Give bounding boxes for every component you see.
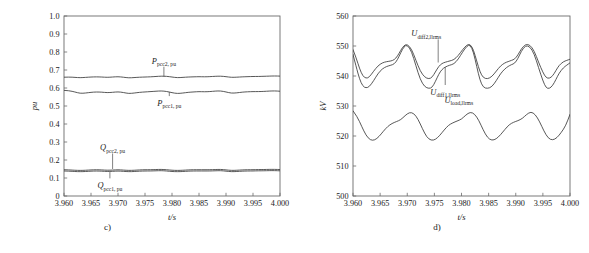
plot-frame	[353, 16, 570, 196]
panel-d-caption: d)	[290, 222, 584, 232]
x-tick-label: 3.980	[452, 199, 470, 208]
x-tick-label: 3.990	[507, 199, 525, 208]
x-axis-title: t/s	[457, 212, 466, 222]
x-tick-label: 3.960	[344, 199, 362, 208]
x-tick-label: 3.960	[55, 199, 73, 208]
annotation-label-U_diff2: Udiff2,llrms	[411, 29, 441, 39]
panel-d: 5005105205305405505603.9603.9653.9703.97…	[295, 0, 589, 253]
annotation-label-Q_pcc2: Qpcc2, pu	[100, 143, 125, 153]
y-tick-label: 530	[336, 102, 348, 111]
y-tick-label: 0.2	[49, 156, 59, 165]
y-tick-label: 0.9	[49, 30, 59, 39]
chart-d-plot: 5005105205305405505603.9603.9653.9703.97…	[295, 0, 589, 225]
chart-c-plot: 00.10.20.30.40.50.60.70.80.91.03.9603.96…	[0, 0, 295, 225]
x-tick-label: 3.965	[371, 199, 389, 208]
y-tick-label: 540	[336, 72, 348, 81]
x-tick-label: 4.000	[271, 199, 289, 208]
x-tick-label: 3.975	[136, 199, 154, 208]
series-curve-Q_pcc1,pu	[64, 171, 280, 172]
series-curve-U_load,llrms	[353, 111, 570, 140]
x-tick-label: 3.970	[109, 199, 127, 208]
annotation-label-P_pcc1: Ppcc1, pu	[156, 99, 181, 109]
panel-c: 00.10.20.30.40.50.60.70.80.91.03.9603.96…	[0, 0, 295, 253]
y-axis-title: kV	[318, 100, 328, 111]
y-tick-label: 0.1	[49, 174, 59, 183]
series-group	[64, 76, 280, 172]
series-curve-U_diff2,llrms	[353, 44, 570, 78]
y-tick-label: 550	[336, 42, 348, 51]
series-curve-P_pcc1,pu	[64, 90, 280, 93]
y-tick-label: 1.0	[49, 12, 59, 21]
x-tick-label: 3.985	[190, 199, 208, 208]
annotation-label-Q_pcc1: Qpcc1, pu	[97, 181, 122, 191]
y-tick-label: 520	[336, 132, 348, 141]
y-tick-label: 0.6	[49, 84, 59, 93]
y-axis-title: pu	[29, 102, 39, 112]
series-group	[353, 44, 570, 140]
y-tick-label: 0.7	[49, 66, 59, 75]
x-tick-label: 3.975	[425, 199, 443, 208]
y-tick-label: 560	[336, 12, 348, 21]
y-tick-label: 0.5	[49, 102, 59, 111]
x-tick-label: 3.990	[217, 199, 235, 208]
figure-container: 00.10.20.30.40.50.60.70.80.91.03.9603.96…	[0, 0, 589, 253]
annotation-label-P_pcc2: Ppcc2, pu	[151, 57, 176, 67]
y-tick-label: 510	[336, 162, 348, 171]
x-axis-title: t/s	[168, 212, 177, 222]
x-tick-label: 3.995	[244, 199, 262, 208]
y-tick-label: 0.4	[49, 120, 59, 129]
x-tick-label: 3.970	[398, 199, 416, 208]
x-tick-label: 3.980	[163, 199, 181, 208]
series-curve-Q_pcc2,pu	[64, 169, 280, 170]
y-tick-label: 0.8	[49, 48, 59, 57]
y-tick-label: 0.3	[49, 138, 59, 147]
x-tick-label: 3.965	[82, 199, 100, 208]
series-curve-P_pcc2,pu	[64, 76, 280, 78]
x-tick-label: 4.000	[561, 199, 579, 208]
panel-c-caption: c)	[0, 222, 255, 232]
x-tick-label: 3.985	[479, 199, 497, 208]
x-tick-label: 3.995	[534, 199, 552, 208]
